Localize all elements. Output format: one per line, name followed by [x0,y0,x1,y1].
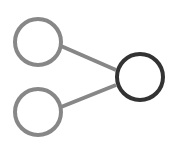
node-input-top [15,19,61,65]
edge-top-to-output [61,46,116,70]
network-diagram [0,0,175,142]
node-input-bottom [15,89,61,135]
node-output [117,54,163,100]
edge-bottom-to-output [61,85,116,107]
